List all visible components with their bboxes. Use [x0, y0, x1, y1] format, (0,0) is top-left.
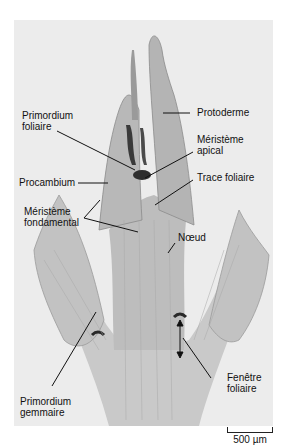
- label-fenetre-foliaire: Fenêtre foliaire: [227, 372, 261, 394]
- scale-bar-line: [227, 427, 273, 433]
- label-trace-foliaire: Trace foliaire: [197, 172, 254, 183]
- label-meristeme-apical: Méristème apical: [197, 134, 244, 156]
- label-meristeme-fondamental: Méristème fondamental: [24, 206, 79, 228]
- label-procambium: Procambium: [19, 177, 75, 188]
- label-protoderme: Protoderme: [197, 107, 249, 118]
- label-noeud: Nœud: [178, 232, 206, 243]
- label-primordium-foliaire: Primordium foliaire: [22, 110, 73, 132]
- scale-bar: 500 µm: [227, 427, 273, 445]
- label-primordium-gemmaire: Primordium gemmaire: [20, 396, 71, 418]
- scale-bar-label: 500 µm: [227, 434, 273, 445]
